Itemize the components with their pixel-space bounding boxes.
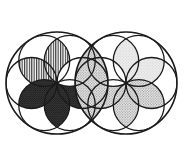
figure-root: Two overlapping rosette circles Geometri… [0, 0, 188, 141]
rosette-diagram [0, 0, 188, 141]
